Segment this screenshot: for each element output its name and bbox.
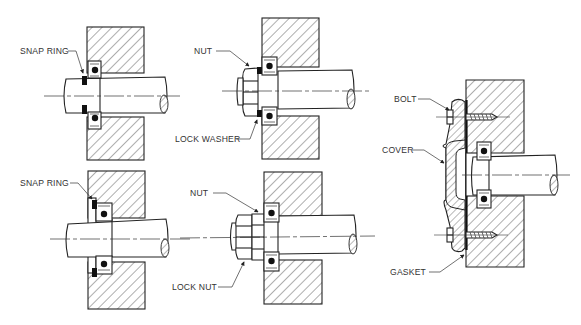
shaft-thread-end [237, 78, 243, 105]
snap-ring [82, 105, 87, 114]
label-gasket: GASKET [390, 267, 427, 277]
label-cover: COVER [382, 145, 414, 155]
label-lock-washer: LOCK WASHER [175, 134, 240, 144]
panel-nut-lock-nut: NUT LOCK NUT [172, 172, 375, 304]
panel-snap-ring-top: SNAP RING [20, 27, 180, 160]
label-snap-ring-top: SNAP RING [20, 46, 69, 56]
snap-ring [92, 268, 97, 277]
label-lock-nut: LOCK NUT [172, 282, 218, 292]
panel-cover-bolt-gasket: BOLT COVER GASKET [382, 80, 570, 277]
lock-washer [257, 110, 262, 117]
label-nut-bottom: NUT [190, 188, 209, 198]
shaft [472, 155, 558, 195]
label-snap-ring-bottom: SNAP RING [20, 178, 69, 188]
panel-snap-ring-bottom: SNAP RING [20, 171, 190, 309]
snap-ring [92, 200, 97, 209]
bearing-retention-diagram: SNAP RING NUT LOCK WASHER [0, 0, 581, 325]
label-bolt: BOLT [394, 94, 417, 104]
shaft [66, 219, 168, 257]
shaft [278, 70, 354, 109]
shaft [278, 215, 356, 254]
label-nut-top: NUT [194, 46, 213, 56]
panel-nut-lock-washer: NUT LOCK WASHER [175, 18, 370, 159]
snap-ring [82, 76, 87, 85]
shaft [64, 77, 167, 113]
lock-washer [257, 67, 262, 74]
